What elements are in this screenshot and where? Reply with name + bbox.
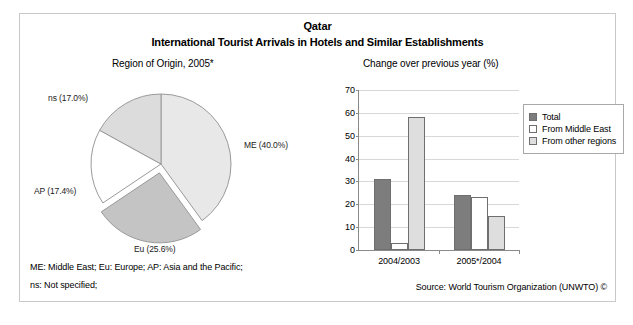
legend-label-total: Total [542,112,561,122]
legend-swatch-from-other-regions [529,137,537,145]
bar-other-0 [408,117,425,250]
bar-chart: 0102030405060702004/20032005*/2004 Total… [320,76,612,286]
y-axis-tick-label: 20 [345,199,355,209]
gridline [359,90,519,91]
y-tick-mark [356,181,359,182]
bar-other-1 [488,216,505,250]
legend-label-from-middle-east: From Middle East [542,124,611,134]
bar-chart-legend: Total From Middle East From other region… [523,104,624,154]
y-tick-mark [356,136,359,137]
legend-item-total: Total [529,112,616,122]
pie-chart-svg [26,76,316,256]
legend-swatch-from-middle-east [529,125,537,133]
y-tick-mark [356,204,359,205]
pie-label-ap: AP (17.4%) [34,186,76,196]
y-tick-mark [356,90,359,91]
legend-item-from-other-regions: From other regions [529,136,616,146]
x-tick-mark [439,250,440,254]
bar-total-1 [454,195,471,250]
pie-chart-subtitle: Region of Origin, 2005* [112,58,214,69]
y-tick-mark [356,227,359,228]
bar-chart-plot-area: 0102030405060702004/20032005*/2004 [358,90,519,251]
y-axis-tick-label: 10 [345,222,355,232]
gridline [359,159,519,160]
y-axis-tick-label: 0 [350,245,355,255]
bar-chart-subtitle: Change over previous year (%) [363,58,499,69]
chart-figure: Qatar International Tourist Arrivals in … [19,13,616,302]
chart-main-title: International Tourist Arrivals in Hotels… [20,36,615,48]
footnote-abbreviations-line1: ME: Middle East; Eu: Europe; AP: Asia an… [30,262,243,272]
y-axis-tick-label: 50 [345,131,355,141]
chart-country-title: Qatar [20,20,615,32]
pie-label-ns: ns (17.0%) [48,93,88,103]
legend-item-from-middle-east: From Middle East [529,124,616,134]
y-axis-tick-label: 70 [345,85,355,95]
y-tick-mark [356,250,359,251]
x-axis-tick-label: 2004/2003 [378,256,420,266]
pie-label-eu: Eu (25.6%) [134,244,176,254]
gridline [359,113,519,114]
pie-label-me: ME (40.0%) [244,140,288,150]
legend-label-from-other-regions: From other regions [542,136,616,146]
bar-total-0 [374,179,391,250]
footnote-abbreviations-line2: ns: Not specified; [30,280,97,290]
y-axis-tick-label: 60 [345,108,355,118]
x-tick-mark [519,250,520,254]
y-axis-tick-label: 30 [345,176,355,186]
pie-chart: ns (17.0%) ME (40.0%) AP (17.4%) Eu (25.… [26,76,316,256]
bar-me-1 [471,197,488,250]
gridline [359,136,519,137]
legend-swatch-total [529,113,537,121]
bar-me-0 [391,243,408,250]
x-axis-tick-label: 2005*/2004 [456,256,501,266]
y-tick-mark [356,113,359,114]
source-credit: Source: World Tourism Organization (UNWT… [416,282,607,292]
y-tick-mark [356,159,359,160]
y-axis-tick-label: 40 [345,154,355,164]
